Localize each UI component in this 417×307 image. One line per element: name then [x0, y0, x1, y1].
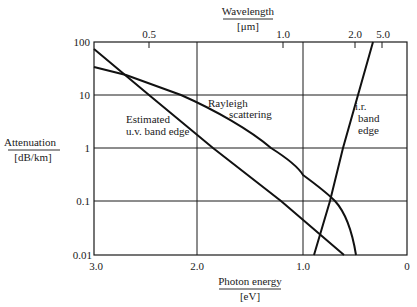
wavelength-unit: [μm] — [237, 20, 259, 32]
ir-label-line1: i.r. — [355, 100, 367, 112]
ir-label-line2: band — [358, 112, 380, 124]
photon-energy-label: Photon energy — [218, 275, 282, 287]
y-tick-1: 1 — [85, 142, 91, 154]
x-tick-3.0: 3.0 — [89, 260, 103, 272]
attenuation-chart: 100 10 1 0.1 0.01 3.0 2.0 1.0 0 0.5 1.0 … — [0, 0, 417, 307]
y-tick-labels: 100 10 1 0.1 0.01 — [73, 36, 92, 261]
rayleigh-label-line2: scattering — [229, 108, 272, 120]
uv-band-edge-curve — [94, 49, 344, 255]
y-tick-0.1: 0.1 — [76, 195, 90, 207]
top-tick-1.0: 1.0 — [276, 28, 290, 40]
rayleigh-annotation: Rayleigh scattering — [208, 97, 272, 120]
photon-energy-unit: [eV] — [240, 290, 260, 302]
top-tick-2.0: 2.0 — [348, 28, 362, 40]
uv-label-line2: u.v. band edge — [126, 125, 190, 137]
uv-annotation: Estimated u.v. band edge — [126, 113, 190, 137]
wavelength-label: Wavelength — [222, 5, 275, 17]
top-tick-labels: 0.5 1.0 2.0 5.0 — [142, 28, 390, 40]
attenuation-unit: [dB/km] — [14, 151, 51, 163]
ir-label-line3: edge — [358, 124, 379, 136]
ir-annotation: i.r. band edge — [355, 100, 380, 136]
uv-label-line1: Estimated — [126, 113, 170, 125]
y-tick-10: 10 — [79, 89, 91, 101]
x-tick-labels: 3.0 2.0 1.0 0 — [89, 260, 410, 272]
top-axis-title: Wavelength [μm] — [222, 5, 275, 32]
x-tick-0: 0 — [404, 260, 410, 272]
attenuation-label: Attenuation — [4, 136, 56, 148]
top-tick-0.5: 0.5 — [142, 28, 156, 40]
x-tick-2.0: 2.0 — [190, 260, 204, 272]
top-tick-5.0: 5.0 — [376, 28, 390, 40]
y-axis-title: Attenuation [dB/km] — [4, 136, 60, 163]
top-axis-ticks — [149, 42, 382, 48]
y-tick-100: 100 — [74, 36, 91, 48]
x-axis-title: Photon energy [eV] — [218, 275, 282, 302]
x-tick-1.0: 1.0 — [296, 260, 310, 272]
